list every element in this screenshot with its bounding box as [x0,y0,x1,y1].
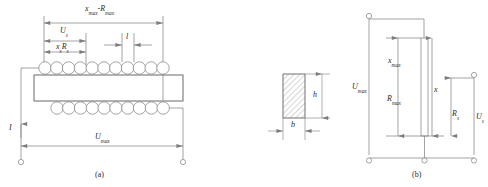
core-rectangle [34,75,183,101]
label-us-b: Us [476,113,484,121]
label-umax-a: Umax [95,133,110,141]
core-outline-overlay [34,75,183,101]
panel-b-terminals [366,13,476,163]
figure-vector-layer [0,0,488,187]
cross-section-body [283,74,305,118]
terminal-top-left-b [366,13,371,18]
label-xmax-b: xmax [388,57,401,65]
caption-a: (a) [95,170,104,179]
label-xmax-rmax: xmax-Rmax [85,5,114,13]
label-umax-b: Umax [352,83,367,91]
terminal-right-b [471,72,476,77]
panel-a-terminals [18,159,185,164]
label-rmax-b: Rmax [387,95,401,103]
terminal-left-a [18,159,23,164]
panel-b-geometry [369,19,474,158]
caption-b: (b) [412,170,421,179]
terminal-right-a [180,159,185,164]
label-us-a: Us [60,27,68,35]
label-current-I-a: I [9,124,12,132]
lead-right [163,108,183,159]
coil-top-row [39,62,169,74]
cross-section-geometry [268,74,330,140]
label-h-cross-section: h [313,91,317,99]
resistive-element-bar [421,38,428,136]
label-b-cross-section: b [291,121,295,129]
lead-left [21,68,44,159]
coil-bottom-row [51,102,170,114]
terminal-bottom-left-b [366,158,371,163]
label-x-b: x [434,86,438,94]
label-l-a: l [126,33,128,41]
label-rs-b: Rs [452,110,459,118]
lead-top-b [369,19,424,38]
figure-canvas: xmax-Rmax Us xsRs l I Umax (a) h b Umax … [0,0,488,187]
label-xs-rs-a: xsRs [56,43,69,51]
terminal-bottom-right-b [471,158,476,163]
terminal-bottom-center-b [422,158,427,163]
